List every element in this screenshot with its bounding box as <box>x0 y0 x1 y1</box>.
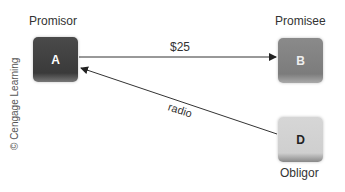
edge-label-payment: $25 <box>170 40 190 54</box>
node-d-letter: D <box>296 133 305 147</box>
node-d: D <box>278 117 323 162</box>
diagram-arrows <box>0 0 345 192</box>
node-a-letter: A <box>51 53 60 67</box>
obligor-label: Obligor <box>280 166 319 180</box>
node-b: B <box>278 38 323 83</box>
arrow-d-to-a <box>81 68 277 134</box>
node-b-letter: B <box>296 54 305 68</box>
copyright-credit: © Cengage Learning <box>9 58 20 150</box>
promisor-label: Promisor <box>29 14 77 28</box>
promisee-label: Promisee <box>275 14 326 28</box>
node-a: A <box>33 37 78 82</box>
